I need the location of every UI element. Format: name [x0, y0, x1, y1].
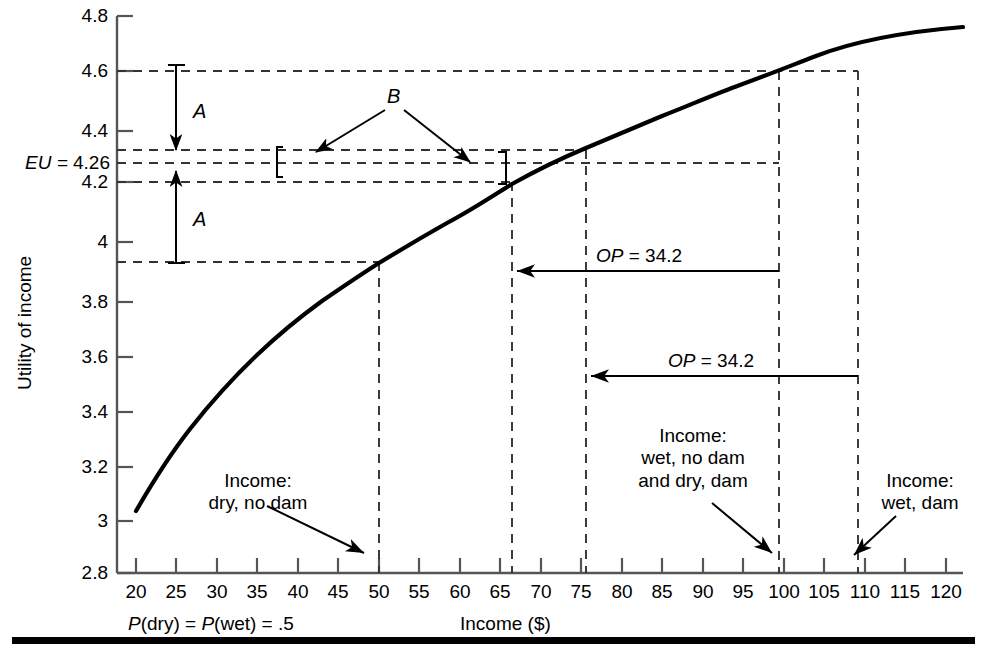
op-upper-prefix: OP	[596, 245, 623, 266]
eu-value: 4.26	[73, 152, 110, 173]
y-tick-label-4-6: 4.6	[58, 60, 108, 82]
option-price-lower-label: OP = 34.2	[668, 350, 754, 372]
y-tick-label-3-6: 3.6	[58, 346, 108, 368]
utility-curve	[136, 27, 963, 511]
probability-note-p-wet: P	[201, 613, 214, 634]
callout-wet-dam-line2: wet, dam	[881, 492, 958, 513]
op-lower-value: = 34.2	[695, 350, 754, 371]
segment-b-label: B	[387, 85, 400, 109]
b-bracket-right	[498, 152, 506, 184]
callout-wet-dam-line1: Income:	[886, 470, 954, 491]
y-tick-label-4: 4	[58, 231, 108, 253]
callout-dry-no-dam-line1: Income:	[224, 470, 292, 491]
segment-a-lower-label: A	[193, 208, 206, 232]
callout-dry-no-dam: Income:dry, no dam	[178, 470, 338, 515]
probability-note-wet: (wet) = .5	[214, 613, 294, 634]
callout-wet-no-dam-line1: Income:	[659, 425, 727, 446]
y-axis-ticks	[117, 16, 133, 573]
bottom-divider-rule	[12, 637, 975, 644]
y-axis-title: Utility of income	[14, 256, 36, 390]
op-upper-value: = 34.2	[623, 245, 682, 266]
callout-wet-dam: Income:wet, dam	[856, 470, 984, 515]
expected-utility-label: EU = 4.26	[0, 152, 110, 174]
y-tick-label-3-4: 3.4	[58, 401, 108, 423]
probability-note-dry: (dry) =	[141, 613, 202, 634]
x-tick-label-120: 120	[921, 581, 971, 603]
y-tick-label-3: 3	[58, 510, 108, 532]
x-axis-ticks	[136, 558, 946, 573]
probability-note-p-dry: P	[128, 613, 141, 634]
y-tick-label-2-8: 2.8	[58, 562, 108, 584]
callout-dry-no-dam-line2: dry, no dam	[209, 492, 308, 513]
op-lower-prefix: OP	[668, 350, 695, 371]
x-axis-title: Income ($)	[460, 613, 551, 635]
y-tick-label-3-8: 3.8	[58, 291, 108, 313]
option-price-upper-label: OP = 34.2	[596, 245, 682, 267]
y-tick-label-4-8: 4.8	[58, 5, 108, 27]
b-bracket-left	[277, 147, 283, 177]
probability-note: P(dry) = P(wet) = .5	[128, 613, 294, 635]
utility-of-income-chart: 4.8 4.6 4.4 4.2 4 3.8 3.6 3.4 3.2 3 2.8 …	[0, 0, 987, 651]
callout-wet-no-dam-line2: wet, no dam	[641, 447, 745, 468]
arrow-wet-no-dam-dry-dam	[712, 503, 772, 553]
callout-arrows	[267, 503, 896, 555]
b-arrow-right	[404, 110, 470, 162]
eu-prefix: EU =	[25, 152, 73, 173]
y-tick-label-3-2: 3.2	[58, 456, 108, 478]
horizontal-reference-lines	[117, 71, 858, 262]
callout-wet-no-dam-and-dry-dam: Income:wet, no damand dry, dam	[608, 425, 778, 492]
callout-wet-no-dam-line3: and dry, dam	[638, 470, 747, 491]
segment-a-upper-label: A	[193, 100, 206, 124]
b-arrow-left	[316, 110, 385, 152]
arrow-wet-dam	[854, 516, 896, 555]
chart-canvas	[0, 0, 987, 651]
y-tick-label-4-4: 4.4	[58, 120, 108, 142]
segment-b-arrows	[277, 110, 506, 184]
